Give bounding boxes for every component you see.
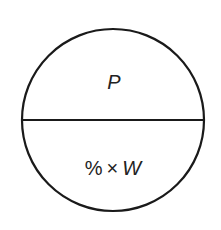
percent-circle-diagram: P %×W: [0, 0, 221, 230]
whole-variable: W: [122, 157, 143, 179]
bottom-label-whole-times-percent: %×W: [85, 157, 143, 179]
times-symbol: ×: [107, 157, 119, 179]
percent-symbol: %: [85, 157, 103, 179]
top-label-part: P: [107, 71, 121, 93]
